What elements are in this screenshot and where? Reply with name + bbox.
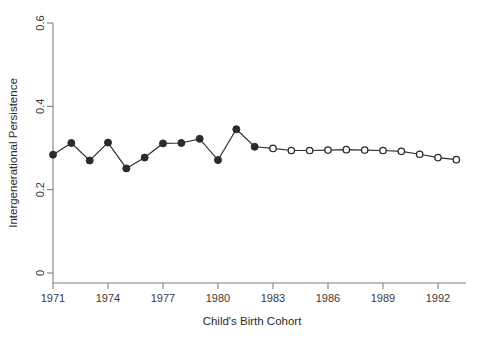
data-point-filled xyxy=(215,157,222,164)
data-point-open xyxy=(306,147,312,153)
data-point-filled xyxy=(141,154,148,161)
x-axis-tick-label: 1989 xyxy=(371,292,395,304)
x-axis-tick-label: 1983 xyxy=(261,292,285,304)
y-axis-tick-label: 0 xyxy=(34,270,46,276)
data-point-filled xyxy=(196,135,203,142)
data-point-open xyxy=(270,145,276,151)
data-point-open xyxy=(380,147,386,153)
data-point-open xyxy=(361,147,367,153)
x-axis-tick-label: 1974 xyxy=(96,292,120,304)
intergenerational-persistence-line-chart: 00.20.40.6 19711974197719801983198619891… xyxy=(0,0,478,338)
data-point-open xyxy=(325,147,331,153)
data-point-filled xyxy=(123,165,130,172)
data-point-open xyxy=(398,148,404,154)
data-point-open xyxy=(435,154,441,160)
data-point-filled xyxy=(233,126,240,133)
data-point-open xyxy=(416,151,422,157)
x-axis-tick-label: 1986 xyxy=(316,292,340,304)
data-point-open xyxy=(288,147,294,153)
y-axis-tick-label: 0.6 xyxy=(34,15,46,30)
x-axis-tick-label: 1980 xyxy=(206,292,230,304)
y-axis-tick-label: 0.4 xyxy=(34,99,46,114)
data-point-filled xyxy=(86,157,93,164)
data-point-filled xyxy=(251,143,258,150)
data-point-open xyxy=(453,156,459,162)
data-point-filled xyxy=(50,151,57,158)
x-axis-tick-label: 1992 xyxy=(426,292,450,304)
y-axis-title: Intergenerational Persistence xyxy=(7,78,19,228)
data-point-filled xyxy=(68,140,75,147)
y-axis-tick-label: 0.2 xyxy=(34,182,46,197)
chart-container: 00.20.40.6 19711974197719801983198619891… xyxy=(0,0,478,338)
x-axis-title: Child's Birth Cohort xyxy=(203,315,303,327)
data-point-filled xyxy=(105,139,112,146)
data-point-filled xyxy=(178,140,185,147)
x-axis-tick-label: 1977 xyxy=(151,292,175,304)
x-axis-tick-label: 1971 xyxy=(41,292,65,304)
data-point-open xyxy=(343,146,349,152)
chart-background xyxy=(0,0,478,338)
data-point-filled xyxy=(160,140,167,147)
